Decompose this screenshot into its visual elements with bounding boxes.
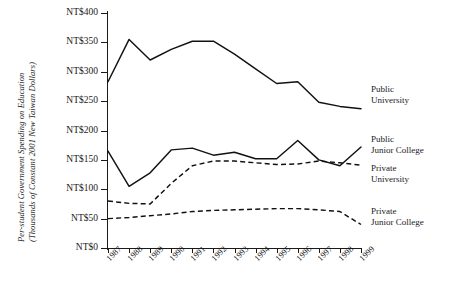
line-public-junior-college xyxy=(108,140,361,186)
chart-figure: Per-student Government Spending on Educa… xyxy=(0,0,449,290)
line-private-junior-college xyxy=(108,209,361,225)
series-label-private-junior-college-line-1: Private xyxy=(371,206,424,217)
series-label-public-university-line-1: Public xyxy=(371,84,409,95)
series-label-public-university-line-2: University xyxy=(371,95,409,106)
series-label-private-university-line-2: University xyxy=(371,174,409,185)
series-label-public-junior-college-line-1: Public xyxy=(371,134,424,145)
series-label-private-junior-college-line-2: Junior College xyxy=(371,217,424,228)
series-label-public-junior-college-line-2: Junior College xyxy=(371,145,424,156)
series-label-public-university: Public University xyxy=(371,84,409,105)
series-label-private-junior-college: Private Junior College xyxy=(371,206,424,227)
series-label-private-university-line-1: Private xyxy=(371,163,409,174)
line-private-university xyxy=(108,161,361,204)
line-public-university xyxy=(108,39,361,108)
series-label-private-university: Private University xyxy=(371,163,409,184)
series-label-public-junior-college: Public Junior College xyxy=(371,134,424,155)
